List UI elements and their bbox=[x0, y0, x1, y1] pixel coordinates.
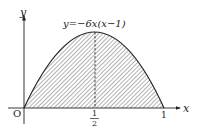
tick-half-denominator: 2 bbox=[92, 119, 97, 128]
x-axis-label: x bbox=[183, 102, 190, 115]
parabola-area-diagram: y x O y=−6x(x−1) 1 2 1 bbox=[0, 0, 197, 134]
tick-one-label: 1 bbox=[161, 110, 167, 120]
origin-label: O bbox=[13, 108, 21, 119]
tick-half-numerator: 1 bbox=[92, 109, 97, 118]
y-axis-label: y bbox=[19, 6, 27, 19]
curve-equation-label: y=−6x(x−1) bbox=[62, 18, 126, 29]
